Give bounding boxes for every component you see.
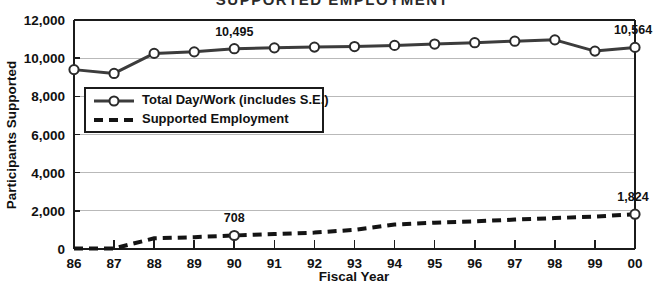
- data-point-marker: [390, 41, 399, 50]
- y-tick-label: 8,000: [31, 89, 65, 104]
- chart-container: SUPPORTED EMPLOYMENT 02,0004,0006,0008,0…: [0, 0, 665, 286]
- data-point-marker: [109, 69, 118, 78]
- x-tick-label: 95: [427, 256, 443, 271]
- x-tick-labels-group: 868788899091929394959697989900: [66, 240, 642, 271]
- y-tick-label: 6,000: [31, 128, 65, 143]
- legend-sample-total-marker: [110, 97, 119, 106]
- data-point-marker: [630, 210, 639, 219]
- x-tick-label: 88: [147, 256, 163, 271]
- x-tick-label: 87: [107, 256, 122, 271]
- data-point-marker: [550, 35, 559, 44]
- x-tick-label: 99: [587, 256, 602, 271]
- y-tick-labels-group: 02,0004,0006,0008,00010,00012,000: [24, 13, 80, 257]
- data-point-marker: [230, 44, 239, 53]
- y-tick-label: 2,000: [31, 204, 65, 219]
- data-point-marker: [190, 47, 199, 56]
- data-point-marker: [430, 39, 439, 48]
- x-tick-label: 94: [387, 256, 403, 271]
- data-point-marker: [69, 65, 78, 74]
- data-point-marker: [350, 42, 359, 51]
- markers-group: [69, 35, 639, 240]
- legend-label-se: Supported Employment: [142, 111, 289, 126]
- x-tick-label: 00: [627, 256, 642, 271]
- series-group: [74, 40, 635, 249]
- data-point-marker: [150, 49, 159, 58]
- line-chart: 02,0004,0006,0008,00010,00012,000 868788…: [0, 0, 665, 286]
- legend-label-total: Total Day/Work (includes S.E.): [142, 92, 329, 107]
- chart-legend[interactable]: Total Day/Work (includes S.E.) Supported…: [85, 88, 329, 132]
- x-tick-label: 91: [267, 256, 283, 271]
- data-point-marker: [470, 38, 479, 47]
- data-point-marker: [590, 47, 599, 56]
- data-value-label: 10,495: [215, 25, 253, 39]
- x-axis-title: Fiscal Year: [319, 269, 390, 284]
- data-point-marker: [230, 231, 239, 240]
- x-tick-label: 96: [467, 256, 483, 271]
- data-value-label: 708: [224, 211, 245, 225]
- x-tick-label: 97: [507, 256, 522, 271]
- y-tick-label: 10,000: [24, 51, 65, 66]
- data-point-marker: [270, 43, 279, 52]
- data-point-marker: [630, 43, 639, 52]
- y-tick-label: 4,000: [31, 166, 65, 181]
- data-value-label: 10,564: [614, 23, 652, 37]
- data-point-marker: [510, 37, 519, 46]
- gridlines-group: [74, 58, 635, 211]
- y-axis-title: Participants Supported: [4, 61, 19, 210]
- x-tick-label: 98: [547, 256, 563, 271]
- x-tick-label: 86: [66, 256, 82, 271]
- y-tick-label: 0: [57, 242, 65, 257]
- data-value-label: 1,824: [617, 190, 648, 204]
- y-tick-label: 12,000: [24, 13, 65, 28]
- x-tick-label: 90: [227, 256, 242, 271]
- x-tick-label: 89: [187, 256, 202, 271]
- data-point-marker: [310, 42, 319, 51]
